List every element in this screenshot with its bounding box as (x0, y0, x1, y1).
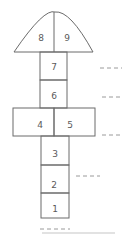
label-1: 1 (52, 204, 58, 214)
label-4: 4 (37, 120, 43, 130)
label-8: 8 (38, 33, 44, 43)
square-5 (54, 108, 95, 136)
label-3: 3 (52, 149, 58, 159)
label-9: 9 (64, 33, 70, 43)
hopscotch-diagram: 8 9 7 6 4 5 3 2 1 (0, 0, 132, 235)
label-5: 5 (67, 120, 73, 130)
label-7: 7 (51, 62, 57, 72)
label-2: 2 (51, 180, 57, 190)
square-4 (13, 108, 54, 136)
label-6: 6 (51, 91, 57, 101)
